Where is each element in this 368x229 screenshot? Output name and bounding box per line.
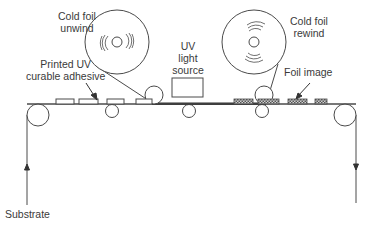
left-guide-roller <box>27 104 49 126</box>
foil-pad-2 <box>258 99 279 104</box>
unwind-label-line1: Cold foil <box>58 10 96 22</box>
substrate-in-arrow-icon <box>25 164 30 170</box>
label-cold-foil-rewind: Cold foil rewind <box>290 15 328 39</box>
label-printed-uv-adhesive: Printed UV curable adhesive <box>26 58 105 82</box>
adhesive-pad-1 <box>56 99 74 104</box>
adhesive-pad-2 <box>79 99 98 104</box>
uv-label-line2: light <box>168 52 208 64</box>
foil-pad-4 <box>315 99 327 104</box>
label-foil-image: Foil image <box>284 66 332 78</box>
idler-roller-1 <box>106 105 119 118</box>
label-substrate: Substrate <box>5 208 50 220</box>
idler-roller-3 <box>256 105 269 118</box>
unwind-reel-hub <box>112 37 122 47</box>
label-cold-foil-unwind: Cold foil unwind <box>58 10 96 34</box>
substrate-out-arrow-icon <box>354 164 359 170</box>
uv-label-line1: UV <box>168 40 208 52</box>
rewind-reel-hub <box>249 37 259 47</box>
foil-image-arrowhead <box>296 93 302 99</box>
foil-pad-3 <box>288 99 307 104</box>
right-guide-roller <box>334 104 356 126</box>
rewind-label-line2: rewind <box>290 27 328 39</box>
adhesive-label-line2: curable adhesive <box>26 70 105 82</box>
adhesive-pad-3 <box>107 99 124 104</box>
adhesive-pad-4 <box>136 99 152 104</box>
uv-label-line3: source <box>168 64 208 76</box>
unwind-label-line2: unwind <box>58 22 96 34</box>
rewind-label-line1: Cold foil <box>290 15 328 27</box>
idler-roller-2 <box>183 105 196 118</box>
uv-light-source-box <box>172 78 203 97</box>
adhesive-label-line1: Printed UV <box>26 58 105 70</box>
label-uv-light-source: UV light source <box>168 40 208 76</box>
foil-pad-1 <box>234 99 253 104</box>
